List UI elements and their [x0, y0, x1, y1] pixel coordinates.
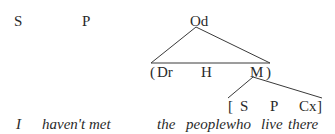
word-i: I: [16, 117, 21, 132]
np-determiner: Dr: [157, 65, 173, 80]
np-modifier: M: [250, 65, 263, 80]
clause-complement: Cx: [299, 99, 317, 114]
label-object: Od: [190, 14, 208, 29]
word-havent-met: haven't met: [42, 117, 111, 132]
m-triangle: [228, 77, 322, 98]
label-subject: S: [14, 14, 22, 29]
word-live: live: [261, 117, 283, 132]
word-people: people: [186, 117, 226, 132]
word-who: who: [226, 117, 251, 132]
word-the: the: [157, 117, 175, 132]
clause-subject: S: [240, 99, 248, 114]
clause-open-bracket: [: [228, 99, 233, 114]
clause-close-bracket: ]: [317, 99, 322, 114]
word-there: there: [288, 117, 318, 132]
label-predicator: P: [82, 14, 90, 29]
od-triangle: [151, 27, 270, 63]
np-open-paren: (: [150, 65, 155, 80]
np-close-paren: ): [266, 65, 271, 80]
np-head: H: [201, 65, 212, 80]
clause-predicator: P: [270, 99, 278, 114]
